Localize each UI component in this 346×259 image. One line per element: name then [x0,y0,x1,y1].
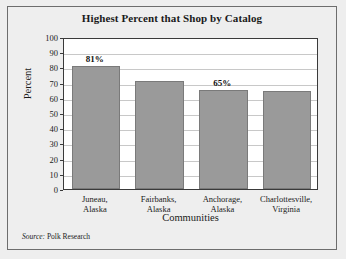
y-axis-tick-label: 50 [32,109,58,119]
x-axis-tick-label-line: Juneau, [59,194,131,204]
bar [263,91,311,189]
bar-value-label: 65% [198,78,246,88]
y-axis-tick-label: 90 [32,48,58,58]
y-axis-tick-label: 100 [32,33,58,43]
source-text: Polk Research [45,232,90,241]
source-note: Source: Polk Research [22,232,90,241]
y-axis-label: Percent [22,44,33,124]
y-axis-tick-mark [60,190,63,191]
y-axis-tick-label: 20 [32,155,58,165]
y-axis-tick-label: 10 [32,170,58,180]
x-axis-label: Communities [63,212,318,223]
x-axis-tick-label-line: Fairbanks, [123,194,195,204]
y-axis-tick-label: 30 [32,139,58,149]
bar [199,90,247,189]
y-axis-tick-label: 80 [32,63,58,73]
bar-value-label: 81% [71,54,119,64]
figure-page: Highest Percent that Shop by Catalog Per… [0,0,346,259]
x-axis-tick-label-line: Anchorage, [187,194,259,204]
bar [72,66,120,189]
y-axis-tick-label: 60 [32,94,58,104]
bar [135,81,183,189]
x-axis-tick-label-line: Charlottesville, [250,194,322,204]
x-axis-tick-label: Fairbanks,Alaska [123,194,195,214]
x-axis-tick-label: Juneau,Alaska [59,194,131,214]
x-axis-tick-label: Charlottesville,Virginia [250,194,322,214]
chart-title: Highest Percent that Shop by Catalog [7,12,337,24]
y-axis-tick-label: 0 [32,185,58,195]
y-axis-tick-label: 70 [32,79,58,89]
y-axis-tick-label: 40 [32,124,58,134]
source-label: Source: [22,232,45,241]
x-axis-tick-label: Anchorage,Alaska [187,194,259,214]
